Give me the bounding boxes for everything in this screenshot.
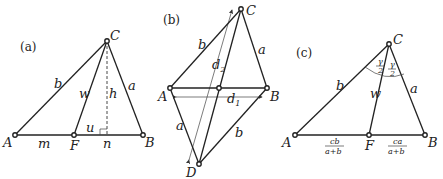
- diagonal-d2-arrow: [189, 10, 232, 160]
- label-n: n: [103, 136, 111, 151]
- label-b: b: [336, 78, 344, 93]
- label-B: B: [269, 89, 280, 104]
- angle-left-den: 2: [377, 66, 383, 75]
- label-d2: d2: [212, 57, 225, 74]
- label-a: a: [410, 81, 418, 96]
- point-b: [265, 86, 269, 90]
- label-w: w: [370, 86, 381, 101]
- point-c: [387, 42, 391, 46]
- point-d: [197, 162, 201, 166]
- label-a: a: [128, 78, 136, 93]
- point-f: [367, 133, 371, 137]
- point-c: [239, 7, 243, 11]
- point-f: [72, 133, 76, 137]
- label-C: C: [393, 32, 403, 47]
- label-D: D: [185, 165, 197, 179]
- seg-left-num: cb: [330, 137, 340, 146]
- seg-right-den: a+b: [388, 147, 405, 156]
- label-C: C: [246, 3, 256, 18]
- label-B: B: [427, 135, 438, 150]
- label-h: h: [109, 86, 117, 101]
- point-a: [168, 86, 172, 90]
- caption-b: (b): [163, 13, 180, 27]
- label-B: B: [144, 135, 155, 150]
- angle-right-num: γ: [390, 60, 395, 69]
- seg-left-den: a+b: [325, 147, 342, 156]
- point-b: [423, 133, 427, 137]
- label-a-bottom: a: [176, 118, 184, 133]
- point-a: [13, 133, 17, 137]
- label-m: m: [38, 136, 50, 151]
- side-a-bottom: [170, 88, 199, 164]
- point-a: [293, 133, 297, 137]
- point-c: [105, 39, 109, 43]
- caption-a: (a): [20, 40, 37, 54]
- side-a: [389, 44, 425, 135]
- seg-right-num: ca: [393, 137, 402, 146]
- label-F: F: [69, 138, 80, 153]
- angle-right-den: 2: [389, 69, 395, 78]
- label-F: F: [364, 138, 375, 153]
- label-A: A: [2, 135, 12, 150]
- panel-c: (c) A C F B b a w γ 2 γ 2 cb a+b ca a+b: [281, 32, 438, 156]
- label-b: b: [54, 76, 62, 91]
- caption-c: (c): [296, 46, 312, 60]
- panel-a: (a) A C F B b a w h u m n: [2, 28, 155, 153]
- geometry-figure: (a) A C F B b a w h u m n (b): [0, 0, 443, 179]
- label-b-top: b: [198, 37, 206, 52]
- angle-left-num: γ: [378, 57, 383, 66]
- label-C: C: [110, 28, 120, 43]
- label-A: A: [281, 135, 291, 150]
- label-A: A: [157, 89, 167, 104]
- label-w: w: [79, 86, 90, 101]
- label-d1: d1: [227, 91, 240, 108]
- label-u: u: [86, 120, 94, 135]
- label-b-bottom: b: [235, 125, 243, 140]
- panel-b: (b) A C B D b a a b d2 d1: [157, 3, 280, 179]
- point-mid: [217, 86, 221, 90]
- right-angle-mark: [100, 129, 107, 135]
- label-a-top: a: [258, 42, 266, 57]
